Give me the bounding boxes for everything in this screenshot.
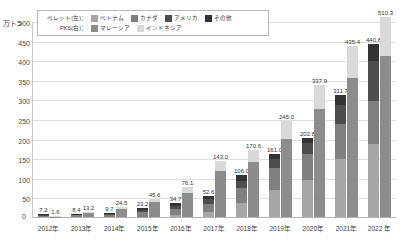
bar-group: 34.776.1 <box>165 22 198 217</box>
y-axis-tick-label: 300 <box>18 98 30 105</box>
bar-pellet[interactable]: 161.0 <box>269 154 280 217</box>
bar-pks[interactable]: 170.6 <box>248 150 259 217</box>
bar-value-label: 245.0 <box>279 114 294 120</box>
bar-pellet[interactable]: 9.7 <box>104 213 115 217</box>
bar-pks[interactable]: 13.2 <box>83 212 94 217</box>
bar-group: 106.0170.6 <box>231 22 264 217</box>
bar-pks[interactable]: 143.0 <box>215 161 226 217</box>
bar-pellet[interactable]: 34.7 <box>170 203 181 217</box>
legend-swatch-icon <box>131 15 138 22</box>
legend-label: アメリカ <box>174 14 198 22</box>
bar-pellet[interactable]: 311.7 <box>335 95 346 217</box>
legend-row-pellet: ペレット(左)： ベトナムカナダアメリカその他 <box>41 13 265 23</box>
bar-value-label: 337.9 <box>312 78 327 84</box>
y-axis-tick-label: 500 <box>18 20 30 27</box>
legend-swatch-icon <box>205 15 212 22</box>
x-axis-tick-label: 2013年 <box>65 220 98 236</box>
bar-pellet[interactable]: 23.2 <box>137 208 148 217</box>
legend-item[interactable]: マレーシア <box>91 24 130 32</box>
bar-pks[interactable]: 435.4 <box>347 46 358 217</box>
bar-value-label: 161.0 <box>267 147 282 153</box>
x-axis-tick-label: 2015年 <box>131 220 164 236</box>
bar-segment <box>368 61 379 102</box>
y-axis-tick-label: 150 <box>18 157 30 164</box>
y-axis-tick-label: 450 <box>18 39 30 46</box>
legend-label: その他 <box>214 14 232 22</box>
bar-pellet[interactable]: 440.8 <box>368 44 379 217</box>
bar-segment <box>215 171 226 217</box>
y-axis-tick-label: 200 <box>18 137 30 144</box>
bar-value-label: 1.6 <box>51 209 59 215</box>
legend-item[interactable]: その他 <box>205 14 232 22</box>
bar-pks[interactable]: 24.5 <box>116 207 127 217</box>
bar-segment <box>83 213 94 217</box>
bar-group: 8.413.2 <box>66 22 99 217</box>
legend-swatch-icon <box>137 25 144 32</box>
bar-segment <box>203 204 214 213</box>
legend-item[interactable]: カナダ <box>131 14 158 22</box>
bar-value-label: 311.7 <box>333 88 348 94</box>
bar-value-label: 7.2 <box>39 207 47 213</box>
bar-pellet[interactable]: 8.4 <box>71 214 82 217</box>
bar-groups: 7.21.68.413.29.724.523.245.634.776.152.6… <box>33 22 396 217</box>
bar-value-label: 24.5 <box>116 200 128 206</box>
bar-value-label: 9.7 <box>105 206 113 212</box>
legend-swatch-icon <box>91 15 98 22</box>
bar-pks[interactable]: 45.6 <box>149 199 160 217</box>
bar-pellet[interactable]: 7.2 <box>38 214 49 217</box>
bar-segment <box>170 215 181 217</box>
bar-segment <box>314 85 325 110</box>
x-axis-tick-label: 2017年 <box>197 220 230 236</box>
bar-segment <box>149 202 160 217</box>
x-axis: 2012年2013年2014年2015年2016年2017年2018年2019年… <box>32 220 396 236</box>
legend-item[interactable]: ベトナム <box>91 14 124 22</box>
x-axis-tick-label: 2022 年 <box>363 220 396 236</box>
bar-segment <box>248 150 259 162</box>
bar-value-label: 170.6 <box>246 143 261 149</box>
bar-segment <box>314 109 325 217</box>
bar-segment <box>368 144 379 217</box>
bar-segment <box>380 56 391 217</box>
legend-item[interactable]: アメリカ <box>165 14 198 22</box>
bar-segment <box>269 190 280 217</box>
bar-pellet[interactable]: 106.0 <box>236 175 247 217</box>
bar-pks[interactable]: 245.0 <box>281 121 292 217</box>
y-axis-tick-label: 400 <box>18 59 30 66</box>
bar-pks[interactable]: 337.9 <box>314 85 325 217</box>
y-axis-tick-label: 50 <box>22 196 30 203</box>
legend-label: カナダ <box>140 14 158 22</box>
bar-segment <box>203 212 214 217</box>
legend-item[interactable]: インドネシア <box>137 24 182 32</box>
bar-segment <box>335 105 346 125</box>
bar-segment <box>71 215 82 217</box>
bar-group: 23.245.6 <box>132 22 165 217</box>
bar-pellet[interactable]: 202.8 <box>302 138 313 217</box>
legend-label: マレーシア <box>100 24 130 32</box>
bar-segment <box>215 161 226 171</box>
bar-value-label: 440.8 <box>366 37 381 43</box>
x-axis-tick-label: 2014年 <box>98 220 131 236</box>
bar-segment <box>236 188 247 203</box>
bar-segment <box>281 121 292 139</box>
legend-label: ベトナム <box>100 14 124 22</box>
bar-pks[interactable]: 1.6 <box>50 216 61 217</box>
bar-segment <box>302 143 313 154</box>
bar-value-label: 52.6 <box>203 189 215 195</box>
bar-pellet[interactable]: 52.6 <box>203 196 214 217</box>
x-axis-tick-label: 2018年 <box>231 220 264 236</box>
bar-segment <box>236 203 247 217</box>
bar-group: 311.7435.4 <box>330 22 363 217</box>
bar-group: 7.21.6 <box>33 22 66 217</box>
bar-segment <box>347 78 358 217</box>
bar-segment <box>335 159 346 217</box>
bar-segment <box>335 124 346 159</box>
bar-segment <box>302 180 313 217</box>
bar-segment <box>38 216 49 217</box>
bar-pks[interactable]: 510.3 <box>380 17 391 217</box>
bar-value-label: 435.4 <box>345 39 360 45</box>
bar-chart: 万トン 50045040035030025020015010050 7.21.6… <box>0 0 403 245</box>
bar-pks[interactable]: 76.1 <box>182 187 193 217</box>
bar-value-label: 8.4 <box>72 207 80 213</box>
bar-segment <box>182 193 193 217</box>
y-axis-zero-label: 0 <box>22 213 26 220</box>
